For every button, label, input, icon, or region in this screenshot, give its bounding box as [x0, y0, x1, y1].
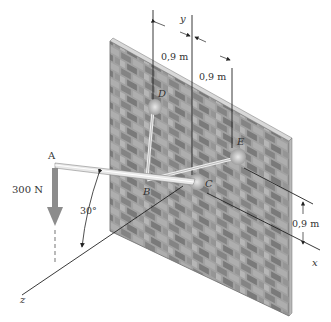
label-z: z	[19, 294, 26, 305]
mount-d	[148, 99, 162, 115]
diagram-canvas: y x z A B C D E 0,9 m 0,9 m 0,9 m 300 N …	[0, 0, 331, 322]
load-arrow	[47, 168, 63, 264]
dim-label-3: 0,9 m	[292, 218, 319, 229]
label-d: D	[157, 88, 166, 99]
diagram: y x z A B C D E 0,9 m 0,9 m 0,9 m 300 N …	[0, 0, 331, 322]
label-y: y	[179, 13, 186, 24]
dim-label-2: 0,9 m	[199, 71, 226, 82]
label-c: C	[205, 178, 213, 189]
dim-label-1: 0,9 m	[161, 51, 188, 62]
label-e: E	[236, 136, 245, 147]
angle-label: 30°	[80, 205, 97, 216]
label-b: B	[142, 186, 150, 197]
load-label: 300 N	[12, 184, 43, 195]
label-a: A	[47, 150, 56, 161]
label-x: x	[312, 257, 318, 268]
mount-e	[230, 149, 246, 165]
